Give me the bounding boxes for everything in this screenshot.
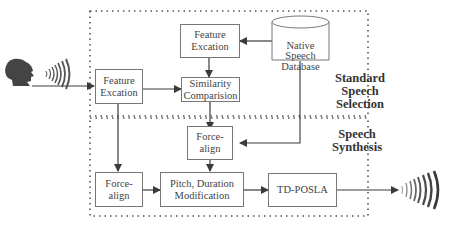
pitch-duration-modification-label: Pitch, Duration Modification (170, 178, 234, 202)
feature-excation-left-box: Feature Excation (95, 69, 143, 104)
force-align-middle-label: Force- align (196, 131, 223, 155)
similarity-comparision-label: Similarity Comparision (183, 78, 237, 102)
force-align-left-label: Force- align (105, 178, 132, 202)
speech-synthesis-label: Speech Synthesis (322, 128, 392, 154)
speech-waves-icon (46, 59, 70, 89)
feature-excation-top-box: Feature Excation (180, 24, 240, 58)
similarity-comparision-box: Similarity Comparision (181, 77, 240, 102)
force-align-middle-box: Force- align (187, 126, 233, 160)
feature-excation-left-label: Feature Excation (100, 75, 137, 99)
speech-system-diagram: .region{display:none;} Feature Excation … (0, 0, 458, 227)
sound-waves-icon (402, 171, 438, 209)
native-speech-database-label: Native Speech Database (272, 30, 329, 72)
td-posla-label: TD-POSLA (277, 184, 328, 196)
speaking-head-icon (5, 59, 34, 86)
pitch-duration-modification-box: Pitch, Duration Modification (160, 172, 244, 207)
standard-speech-selection-label: Standard Speech Selection (325, 72, 395, 111)
td-posla-box: TD-POSLA (268, 173, 337, 207)
force-align-left-box: Force- align (95, 172, 143, 207)
feature-excation-top-label: Feature Excation (191, 29, 228, 53)
